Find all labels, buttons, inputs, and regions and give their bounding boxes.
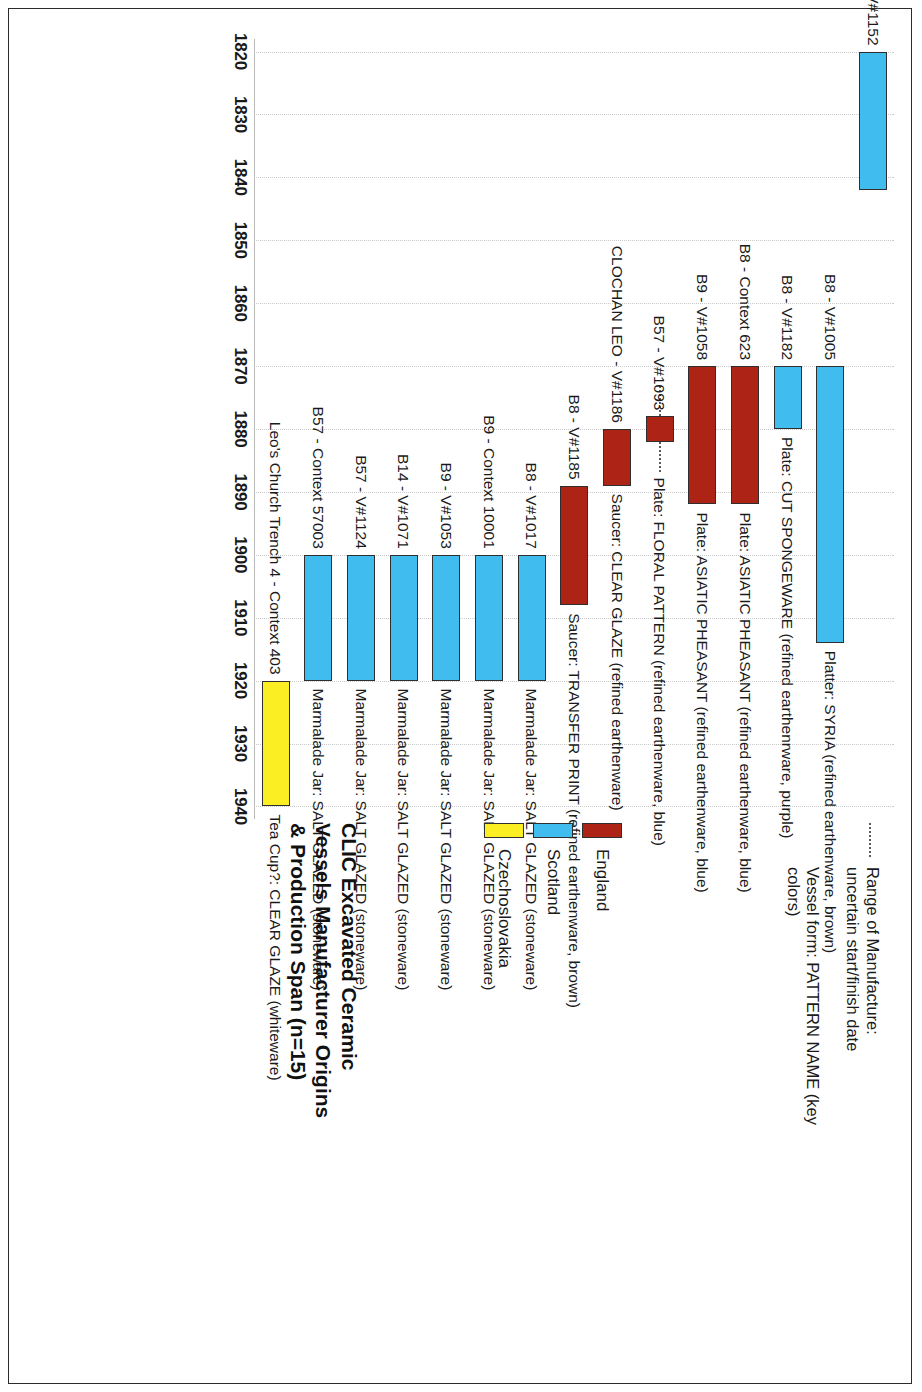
- bar-lane: B57 - Context 57003Marmalade Jar: SALT G…: [297, 39, 340, 819]
- vessel-id-label: B9 - V#1058: [694, 274, 710, 360]
- vessel-description-label: Plate: CUT SPONGEWARE (refined earthenrw…: [780, 437, 796, 838]
- vessel-id-label: Leo's Church Trench 4 - Context 403: [268, 422, 284, 675]
- production-span-bar[interactable]: [347, 555, 375, 681]
- x-axis-tick-label: 1890: [230, 473, 250, 510]
- vessel-id-label: B57 - V#1093: [652, 316, 668, 411]
- x-axis-tick-label: 1910: [230, 599, 250, 636]
- bar-lane: B8 - V#1005Platter: SYRIA (refined earth…: [809, 39, 852, 819]
- production-span-bar[interactable]: [859, 52, 887, 190]
- x-axis-tick-label: 1920: [230, 662, 250, 699]
- vessel-id-label: B8 - V#1182: [780, 275, 796, 360]
- bar-lane: B8 - Context 623Plate: ASIATIC PHEASANT …: [723, 39, 766, 819]
- vessel-id-label: B8 - Context 623: [737, 244, 753, 360]
- legend-item-label: Scotland: [543, 849, 563, 915]
- x-axis-tick-label: 1900: [230, 536, 250, 573]
- bar-lane: CLOCHAN LEO - V#1186Saucer: CLEAR GLAZE …: [595, 39, 638, 819]
- production-span-bar[interactable]: [475, 555, 503, 681]
- dotted-line-icon: [869, 823, 871, 857]
- legend-item-label: England: [592, 849, 612, 911]
- bar-lane: B8 - V#1185Saucer: TRANSFER PRINT (refin…: [553, 39, 596, 819]
- legend-note-text: Range of Manufacture: uncertain start/fi…: [842, 867, 882, 1051]
- production-span-bar[interactable]: [774, 366, 802, 429]
- production-span-bar[interactable]: [646, 416, 674, 441]
- legend-item[interactable]: England: [582, 823, 622, 1153]
- vessel-description-label: Plate: ASIATIC PHEASANT (refined earthen…: [737, 512, 753, 892]
- x-axis-tick-label: 1930: [230, 725, 250, 762]
- production-span-bar[interactable]: [432, 555, 460, 681]
- bar-lane: Leo's Church Trench 4 - Context 403Tea C…: [254, 39, 297, 819]
- production-span-bar[interactable]: [518, 555, 546, 681]
- production-span-bar[interactable]: [816, 366, 844, 643]
- x-axis-tick-label: 1830: [230, 96, 250, 133]
- vessel-id-label: CLOCHAN LEO - V#1186: [609, 246, 625, 423]
- vessel-description-label: Marmalade Jar: SALT GLAZED (stoneware): [438, 689, 454, 991]
- x-axis-tick-label: 1940: [230, 788, 250, 825]
- chart-frame: 1820183018401850186018701880189019001910…: [8, 8, 912, 1384]
- production-span-bar[interactable]: [688, 366, 716, 504]
- plot-area: 1820183018401850186018701880189019001910…: [254, 39, 894, 819]
- legend-note: Vessel form: PATTERN NAME (key colors): [783, 823, 823, 1163]
- bar-lane: B9 - V#1053Marmalade Jar: SALT GLAZED (s…: [425, 39, 468, 819]
- production-span-bar[interactable]: [390, 555, 418, 681]
- vessel-id-label: B14 - V#1071: [396, 454, 412, 549]
- legend-note: Range of Manufacture: uncertain start/fi…: [842, 823, 882, 1163]
- x-axis-tick-label: 1840: [230, 159, 250, 196]
- legend-color-swatch: [484, 823, 524, 838]
- bar-lane: B57 - V#1124Marmalade Jar: SALT GLAZED (…: [339, 39, 382, 819]
- origin-legend: EnglandScotlandCzechoslovakia: [475, 823, 622, 1153]
- vessel-description-label: Plate: ASIATIC PHEASANT (refined earthen…: [694, 512, 710, 892]
- x-axis-tick-label: 1870: [230, 348, 250, 385]
- bar-lane: B9 - V#1058Plate: ASIATIC PHEASANT (refi…: [681, 39, 724, 819]
- chart-page: 1820183018401850186018701880189019001910…: [0, 0, 922, 1392]
- production-span-bar[interactable]: [560, 486, 588, 606]
- legend-item-label: Czechoslovakia: [494, 849, 514, 968]
- bar-lane: B8 - V#1017Marmalade Jar: SALT GLAZED (s…: [510, 39, 553, 819]
- production-span-bar[interactable]: [262, 681, 290, 807]
- bar-lane: B57 - V#1093Plate: FLORAL PATTERN (refin…: [638, 39, 681, 819]
- bar-lane: B8 - V#1182Plate: CUT SPONGEWARE (refine…: [766, 39, 809, 819]
- vessel-description-label: Tea Cup?: CLEAR GLAZE (whiteware): [268, 814, 284, 1080]
- bar-lane: S105 - V#1152: [851, 39, 894, 819]
- uncertain-range-dash: [659, 442, 661, 472]
- legend-item[interactable]: Scotland: [533, 823, 573, 1153]
- bar-lane: B14 - V#1071Marmalade Jar: SALT GLAZED (…: [382, 39, 425, 819]
- legend-color-swatch: [582, 823, 622, 838]
- vessel-id-label: B8 - V#1185: [566, 395, 582, 480]
- x-axis-tick-label: 1820: [230, 33, 250, 70]
- bar-lane: B9 - Context 10001Marmalade Jar: SALT GL…: [467, 39, 510, 819]
- legend-note-text: Vessel form: PATTERN NAME (key colors): [783, 867, 823, 1163]
- x-axis-tick-label: 1850: [230, 222, 250, 259]
- vessel-description-label: Saucer: CLEAR GLAZE (refined earthenware…: [609, 494, 625, 811]
- chart-title: CLIC Excavated Ceramic Vessels Manufactu…: [285, 823, 362, 1163]
- legend-color-swatch: [533, 823, 573, 838]
- x-axis-tick-label: 1880: [230, 410, 250, 447]
- production-span-bar[interactable]: [731, 366, 759, 504]
- production-span-bar[interactable]: [304, 555, 332, 681]
- vessel-description-label: Marmalade Jar: SALT GLAZED (stoneware): [396, 689, 412, 991]
- vessel-id-label: B57 - Context 57003: [310, 407, 326, 549]
- vessel-description-label: Plate: FLORAL PATTERN (refined earthenwa…: [652, 478, 668, 846]
- legend-item[interactable]: Czechoslovakia: [484, 823, 524, 1153]
- vessel-id-label: B8 - V#1017: [524, 463, 540, 549]
- vessel-id-label: B8 - V#1005: [822, 274, 838, 360]
- legend-notes: Range of Manufacture: uncertain start/fi…: [763, 823, 882, 1163]
- vessel-id-label: B9 - V#1053: [438, 463, 454, 549]
- vessel-id-label: B57 - V#1124: [353, 455, 369, 549]
- production-span-bar[interactable]: [603, 429, 631, 486]
- vessel-id-label: B9 - Context 10001: [481, 415, 497, 549]
- x-axis-tick-label: 1860: [230, 285, 250, 322]
- rotated-chart-container: 1820183018401850186018701880189019001910…: [18, 17, 922, 1392]
- vessel-id-label: S105 - V#1152: [865, 0, 881, 46]
